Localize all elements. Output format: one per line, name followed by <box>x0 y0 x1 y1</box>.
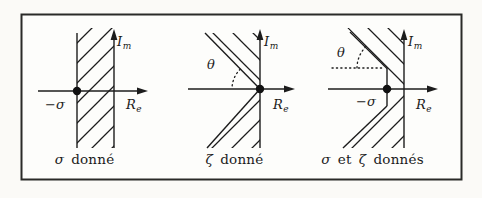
figure-complex-plane-regions: Im Re −σ σ donné Im Re θ ζ donné Im Re θ… <box>0 0 482 198</box>
panel-caption-sigma-zeta: σ et ζ donnés <box>318 153 424 167</box>
diagram-canvas <box>0 0 482 198</box>
theta-angle-label: θ <box>337 46 345 59</box>
imaginary-axis-label: Im <box>264 35 278 51</box>
real-axis-label: Re <box>416 98 432 114</box>
imaginary-axis-label: Im <box>408 35 422 51</box>
hatched-band-region <box>77 28 114 148</box>
panel-caption-zeta: ζ donné <box>203 153 264 167</box>
pole-value-label: −σ <box>45 98 65 111</box>
pole-dot <box>73 87 81 95</box>
origin-dot <box>256 85 264 93</box>
theta-angle-label: θ <box>207 58 215 71</box>
pole-dot <box>383 85 391 93</box>
real-axis-label: Re <box>126 98 142 114</box>
panel-caption-sigma: σ donné <box>52 153 115 167</box>
pole-value-label: −σ <box>356 95 376 108</box>
real-axis-label: Re <box>273 98 289 114</box>
imaginary-axis-label: Im <box>117 35 131 51</box>
